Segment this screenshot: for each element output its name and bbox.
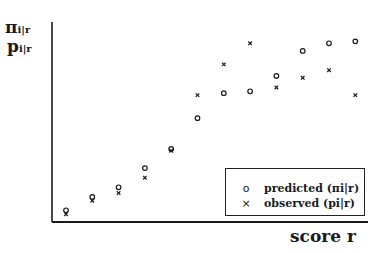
observed-point <box>248 41 252 45</box>
predicted-point <box>195 116 200 121</box>
predicted-point <box>64 208 69 213</box>
observed-point <box>327 68 331 72</box>
cross-marker-icon: × <box>241 197 251 210</box>
y-label-p: p <box>7 36 19 56</box>
x-axis-label: score r <box>290 226 356 246</box>
observed-point <box>117 191 121 195</box>
y-axis-label-predicted: πi|r <box>5 17 30 37</box>
predicted-point <box>90 195 95 200</box>
legend-label-predicted: predicted (πi|r) <box>264 182 359 195</box>
circle-marker-icon: o <box>241 182 251 195</box>
observed-point <box>275 86 279 90</box>
legend-item-observed: × observed (pi|r) <box>226 197 366 213</box>
predicted-point <box>300 49 305 54</box>
predicted-point <box>353 39 358 44</box>
legend-item-predicted: o predicted (πi|r) <box>226 182 366 198</box>
predicted-point <box>274 74 279 79</box>
observed-point <box>196 93 200 97</box>
y-label-pi-subscript: i|r <box>17 24 30 35</box>
y-label-pi: π <box>5 17 17 37</box>
predicted-point <box>143 166 148 171</box>
predicted-point <box>248 89 253 94</box>
observed-point <box>301 76 305 80</box>
predicted-point <box>222 91 227 96</box>
observed-point <box>222 63 226 67</box>
predicted-point <box>327 41 332 46</box>
legend: o predicted (πi|r) × observed (pi|r) <box>225 168 365 216</box>
y-label-p-subscript: i|r <box>19 43 32 54</box>
observed-point <box>354 93 358 97</box>
legend-label-observed: observed (pi|r) <box>264 197 355 210</box>
observed-point <box>143 176 147 180</box>
predicted-point <box>116 185 121 190</box>
y-axis-label-observed: pi|r <box>7 36 32 56</box>
